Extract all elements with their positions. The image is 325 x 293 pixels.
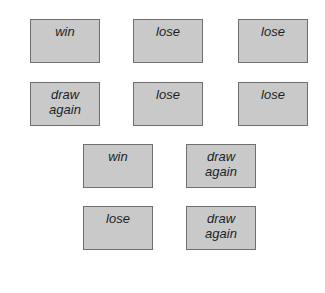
card-label-line1: draw xyxy=(187,149,255,164)
card-9: lose xyxy=(83,206,153,250)
card-8: draw again xyxy=(186,144,256,188)
card-label-line1: draw xyxy=(187,211,255,226)
card-4: draw again xyxy=(30,82,100,126)
card-label: lose xyxy=(84,211,152,226)
card-10: draw again xyxy=(186,206,256,250)
card-label-line1: draw xyxy=(31,87,99,102)
card-label: win xyxy=(31,24,99,39)
card-label: lose xyxy=(134,24,202,39)
card-6: lose xyxy=(238,82,308,126)
card-label: lose xyxy=(239,24,307,39)
card-5: lose xyxy=(133,82,203,126)
card-label: lose xyxy=(134,87,202,102)
card-7: win xyxy=(83,144,153,188)
card-2: lose xyxy=(133,19,203,63)
card-label-line2: again xyxy=(187,164,255,179)
card-3: lose xyxy=(238,19,308,63)
card-label: lose xyxy=(239,87,307,102)
card-label-line2: again xyxy=(187,226,255,241)
card-label: win xyxy=(84,149,152,164)
card-label-line2: again xyxy=(31,102,99,117)
card-1: win xyxy=(30,19,100,63)
